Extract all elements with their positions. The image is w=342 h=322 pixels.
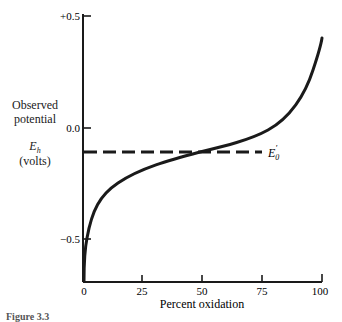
y-tick-label-top: +0.5 bbox=[60, 10, 80, 22]
x-tick-label-50: 50 bbox=[197, 285, 209, 297]
x-tick-label-0: 0 bbox=[81, 285, 87, 297]
y-axis-units: (volts) bbox=[2, 154, 68, 168]
y-tick-label-bot: −0.5 bbox=[60, 233, 80, 245]
x-tick-label-25: 25 bbox=[137, 285, 149, 297]
e0-label-sub: 0 bbox=[275, 153, 279, 162]
e0-label: E0′ bbox=[267, 143, 279, 162]
x-tick-label-75: 75 bbox=[257, 285, 269, 297]
e0-label-prime: ′ bbox=[275, 143, 278, 153]
titration-curve bbox=[84, 38, 322, 281]
y-axis-title-line2: potential bbox=[2, 112, 68, 126]
y-axis-title: Observed potential bbox=[2, 98, 68, 126]
figure-caption: Figure 3.3 bbox=[6, 311, 49, 322]
y-axis-title-line1: Observed bbox=[2, 98, 68, 112]
x-tick-label-100: 100 bbox=[312, 285, 329, 297]
x-axis-title: Percent oxidation bbox=[160, 297, 244, 311]
y-tick-label-mid: 0.0 bbox=[66, 122, 80, 134]
y-axis-symbol-main: E bbox=[29, 139, 36, 153]
